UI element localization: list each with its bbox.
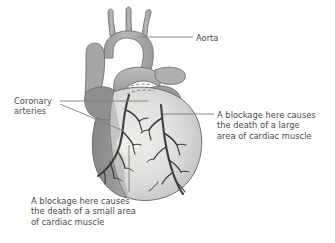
label-coronary-arteries: Coronary arteries: [14, 96, 52, 117]
label-small-blockage: A blockage here causes the death of a sm…: [31, 196, 136, 227]
heart-diagram-figure: Aorta Coronary arteries A blockage here …: [0, 0, 335, 243]
ventricles-group: [85, 87, 202, 201]
label-aorta: Aorta: [196, 33, 218, 43]
right-pulmonary-artery: [155, 67, 185, 84]
label-large-blockage: A blockage here causes the death of a la…: [217, 110, 316, 141]
brachiocephalic-branch-right: [142, 9, 151, 36]
brachiocephalic-branch-middle: [126, 7, 132, 34]
right-atrium: [85, 87, 114, 120]
brachiocephalic-branch-left: [108, 9, 116, 36]
